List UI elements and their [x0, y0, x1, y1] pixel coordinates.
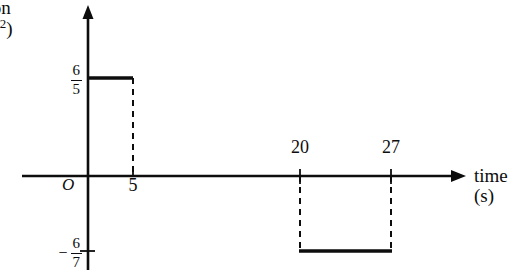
x-axis-label: time (s): [474, 166, 508, 206]
x-axis-arrowhead-icon: [451, 170, 466, 182]
fraction-numerator: 6: [71, 63, 83, 78]
y-tick-label-negative: − 6 7: [28, 236, 82, 270]
y-axis-label-line2: (m s−2): [0, 19, 12, 39]
x-tick-label-27: 27: [373, 138, 409, 157]
y-axis-arrowhead-icon: [83, 5, 94, 19]
x-tick-label-20: 20: [282, 138, 318, 157]
origin-label: O: [62, 176, 74, 194]
minus-sign: −: [58, 245, 67, 262]
x-axis-label-line1: time: [474, 165, 508, 186]
x-tick-label-5: 5: [118, 176, 148, 195]
fraction-numerator: 6: [71, 236, 83, 251]
fraction-denominator: 5: [71, 82, 83, 97]
x-axis-label-line2: (s): [474, 186, 508, 206]
acceleration-time-figure: eration (m s−2) time (s) O 5 20 27 6 5 −…: [0, 0, 520, 280]
fraction-six-fifths: 6 5: [71, 63, 83, 97]
y-axis-label: eration (m s−2): [0, 0, 12, 39]
fraction-denominator: 7: [71, 255, 83, 270]
fraction-six-sevenths: 6 7: [71, 236, 83, 270]
y-axis-unit-suffix: ): [6, 18, 12, 39]
y-tick-label-positive: 6 5: [48, 63, 82, 97]
